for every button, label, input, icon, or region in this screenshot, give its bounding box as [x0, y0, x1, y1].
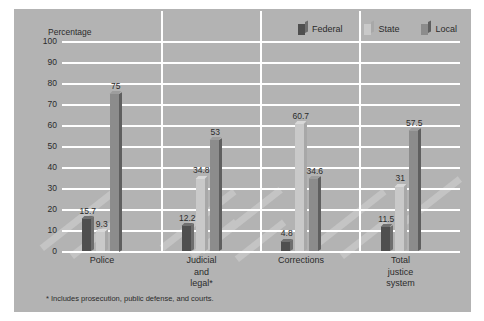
bar-body — [409, 130, 418, 251]
bar-body — [82, 218, 91, 251]
bar-group: 4.860.734.6 — [261, 41, 361, 251]
y-axis-tick-label: 90 — [48, 58, 57, 67]
bar-value-label: 15.7 — [80, 207, 97, 216]
bar-value-label: 4.8 — [281, 229, 293, 238]
bar-state[interactable]: 9.3 — [96, 231, 107, 251]
bar-value-label: 31 — [395, 174, 404, 183]
bar-value-label: 11.5 — [378, 215, 394, 224]
y-axis-tick-label: 60 — [48, 121, 57, 130]
bar-value-label: 9.3 — [96, 220, 108, 229]
y-axis-tick-label: 40 — [48, 163, 57, 172]
legend-item-federal[interactable]: Federal — [298, 22, 343, 35]
gridline: 0 — [62, 251, 460, 253]
x-axis-category-label: Corrections — [278, 255, 324, 267]
bar-value-label: 34.6 — [307, 167, 324, 176]
bar-group: 11.53157.5 — [361, 41, 461, 251]
bar-body — [210, 140, 219, 251]
bar-body — [309, 178, 318, 251]
bar-state[interactable]: 31 — [395, 186, 406, 251]
y-axis-tick-label: 30 — [48, 184, 57, 193]
y-axis-tick-label: 20 — [48, 205, 57, 214]
bar-group: 15.79.375 — [62, 41, 162, 251]
y-axis-tick-label: 10 — [48, 226, 57, 235]
bar-body — [381, 227, 390, 251]
legend-swatch-state-icon — [364, 22, 373, 35]
bar-value-label: 60.7 — [293, 112, 310, 121]
bar-body — [196, 178, 205, 251]
legend-swatch-local-icon — [421, 22, 430, 35]
bar-local[interactable]: 53 — [210, 140, 221, 251]
y-axis-tick-label: 50 — [48, 142, 57, 151]
bar-value-label: 34.8 — [193, 166, 210, 175]
y-axis-tick-label: 0 — [52, 247, 57, 256]
bar-state[interactable]: 34.8 — [196, 178, 207, 251]
bar-body — [295, 124, 304, 251]
chart-container: Percentage Federal State Local 100908070… — [14, 9, 471, 312]
bar-local[interactable]: 57.5 — [409, 130, 420, 251]
legend-label-federal: Federal — [312, 24, 343, 34]
y-axis-tick-label: 100 — [43, 37, 57, 46]
plot-area: 1009080706050403020100 15.79.37512.234.8… — [62, 41, 460, 251]
legend-item-local[interactable]: Local — [421, 22, 457, 35]
bar-body — [395, 186, 404, 251]
bar-value-label: 12.2 — [179, 214, 196, 223]
bar-state[interactable]: 60.7 — [295, 124, 306, 251]
bar-value-label: 53 — [210, 128, 219, 137]
bar-local[interactable]: 75 — [110, 94, 121, 252]
legend-item-state[interactable]: State — [364, 22, 399, 35]
bar-group: 12.234.853 — [162, 41, 262, 251]
chart-legend: Federal State Local — [298, 22, 457, 35]
bar-value-label: 75 — [111, 82, 120, 91]
bar-federal[interactable]: 15.7 — [82, 218, 93, 251]
y-axis-tick-label: 80 — [48, 79, 57, 88]
bar-value-label: 57.5 — [406, 119, 423, 128]
x-axis-category-label: Judicial and legal* — [186, 255, 216, 290]
x-axis-category-label: Police — [90, 255, 115, 267]
bar-body — [182, 225, 191, 251]
bar-body — [96, 231, 105, 251]
bar-federal[interactable]: 11.5 — [381, 227, 392, 251]
legend-label-state: State — [378, 24, 399, 34]
legend-label-local: Local — [435, 24, 457, 34]
bar-federal[interactable]: 4.8 — [281, 241, 292, 251]
bar-body — [281, 241, 290, 251]
x-axis-category-label: Total justice system — [386, 255, 415, 290]
legend-swatch-federal-icon — [298, 22, 307, 35]
bar-body — [110, 94, 119, 252]
y-axis-tick-label: 70 — [48, 100, 57, 109]
bar-local[interactable]: 34.6 — [309, 178, 320, 251]
bar-federal[interactable]: 12.2 — [182, 225, 193, 251]
chart-footnote: * Includes prosecution, public defense, … — [46, 294, 214, 303]
